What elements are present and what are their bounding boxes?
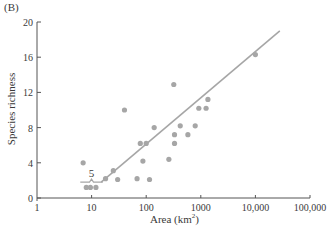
data-point [103, 176, 108, 181]
data-point [196, 106, 201, 111]
data-point [193, 123, 198, 128]
data-point [134, 176, 139, 181]
threshold-annotation: 5 [80, 167, 102, 182]
data-point [81, 160, 86, 165]
x-tick-label: 10,000 [242, 202, 270, 213]
x-tick-label: 100,000 [294, 202, 327, 213]
data-point [93, 185, 98, 190]
data-point [144, 141, 149, 146]
data-point [147, 177, 152, 182]
y-tick-label: 20 [23, 17, 33, 28]
data-point [178, 123, 183, 128]
y-tick-label: 8 [28, 123, 33, 134]
data-point [88, 185, 93, 190]
data-point [172, 132, 177, 137]
y-tick-label: 4 [28, 158, 33, 169]
scatter-plot: 110100100010,000100,000048121620 5 [0, 0, 328, 228]
data-point [122, 107, 127, 112]
annotation-text: 5 [89, 167, 95, 179]
data-point [140, 158, 145, 163]
axes: 110100100010,000100,000048121620 [23, 17, 326, 213]
x-tick-label: 1000 [191, 202, 211, 213]
data-point [185, 132, 190, 137]
x-tick-label: 10 [87, 202, 97, 213]
data-point [205, 97, 210, 102]
y-tick-label: 12 [23, 87, 33, 98]
data-point [115, 177, 120, 182]
data-point [166, 157, 171, 162]
y-tick-label: 0 [28, 193, 33, 204]
x-tick-label: 1 [35, 202, 40, 213]
data-point [171, 82, 176, 87]
data-point [203, 106, 208, 111]
data-point [111, 168, 116, 173]
data-point [152, 125, 157, 130]
data-point [138, 141, 143, 146]
x-tick-label: 100 [139, 202, 154, 213]
data-point [172, 141, 177, 146]
bracket [80, 179, 102, 182]
data-point [253, 52, 258, 57]
y-tick-label: 16 [23, 52, 33, 63]
